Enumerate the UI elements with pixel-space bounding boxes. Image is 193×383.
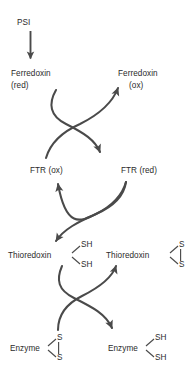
label-enzyme-right-sh-top: SH xyxy=(155,333,166,342)
arrow-ftr-ox-to-ferredoxin-ox xyxy=(46,88,118,158)
label-ferredoxin-red: Ferredoxin xyxy=(11,68,51,79)
label-ferredoxin-ox-state: (ox) xyxy=(129,80,143,91)
redox-cascade-diagram: PSI Ferredoxin (red) Ferredoxin (ox) FTR… xyxy=(0,0,193,383)
label-ferredoxin-red-state: (red) xyxy=(11,80,29,91)
label-thioredoxin-left-sh-top: SH xyxy=(81,240,92,249)
arrow-ferredoxin-red-to-ftr-red xyxy=(51,90,100,152)
label-psi: PSI xyxy=(17,17,30,28)
label-enzyme-right: Enzyme xyxy=(108,343,138,354)
diagram-canvas xyxy=(0,0,193,383)
label-enzyme-right-sh-bottom: SH xyxy=(155,353,166,362)
bond-enzyme-right-sh-top xyxy=(146,339,154,346)
label-enzyme-left-s-top: S xyxy=(57,333,62,342)
label-enzyme-left-s-bottom: S xyxy=(57,353,62,362)
label-enzyme-left: Enzyme xyxy=(10,343,40,354)
label-thioredoxin-left-sh-bottom: SH xyxy=(81,260,92,269)
label-thioredoxin-right: Thioredoxin xyxy=(106,250,149,261)
label-thioredoxin-right-s-top: S xyxy=(179,240,184,249)
bond-thioredoxin-left-sh-top xyxy=(72,246,80,253)
label-thioredoxin-right-s-bottom: S xyxy=(179,260,184,269)
bond-thioredoxin-right-s-top xyxy=(170,246,178,253)
label-ftr-red: FTR (red) xyxy=(121,165,157,176)
bond-enzyme-right-sh-bottom xyxy=(146,350,154,357)
bond-thioredoxin-left-sh-bottom xyxy=(72,257,80,264)
bond-enzyme-left-s-top xyxy=(48,339,56,346)
label-ftr-ox: FTR (ox) xyxy=(30,165,63,176)
label-ferredoxin-ox: Ferredoxin xyxy=(118,68,158,79)
arrow-enzyme-ox-to-enzyme-red xyxy=(59,266,112,328)
label-thioredoxin-left: Thioredoxin xyxy=(8,250,51,261)
bond-thioredoxin-right-s-bottom xyxy=(170,257,178,264)
bond-enzyme-left-s-bottom xyxy=(48,350,56,357)
